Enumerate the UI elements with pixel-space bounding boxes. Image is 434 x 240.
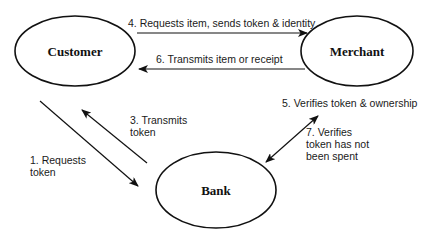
edge-3-label-line2: token [130,126,156,138]
edge-4-label: 4. Requests item, sends token & identity [128,17,316,29]
payment-flow-diagram: Customer Merchant Bank 4. Requests item,… [0,0,434,240]
edge-3: 3. Transmits token [82,110,187,163]
edge-3-label-line1: 3. Transmits [130,114,187,126]
edge-7-label-line1: 7. Verifies [306,126,352,138]
edge-6-label: 6. Transmits item or receipt [156,53,283,65]
node-bank: Bank [156,152,276,228]
edge-5-7: 5. Verifies token & ownership 7. Verifie… [266,97,418,162]
edge-7-label-line2: token has not [306,138,369,150]
edge-7-label-line3: been spent [306,150,358,162]
merchant-label: Merchant [330,44,385,59]
edge-1-label-line2: token [30,166,56,178]
edge-5-label: 5. Verifies token & ownership [282,97,418,109]
edge-1: 1. Requests token [30,101,138,186]
bank-label: Bank [201,183,231,198]
edge-1-label-line1: 1. Requests [30,154,86,166]
node-merchant: Merchant [301,16,413,86]
node-customer: Customer [15,16,135,86]
edge-4: 4. Requests item, sends token & identity [128,17,316,33]
edge-6: 6. Transmits item or receipt [139,53,305,69]
customer-label: Customer [48,44,103,59]
